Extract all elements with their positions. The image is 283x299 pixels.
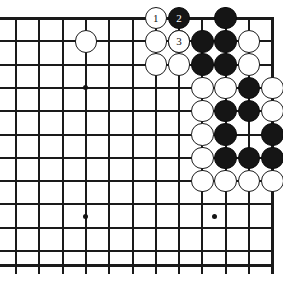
move-stone-white-3[interactable]: 3 xyxy=(168,30,191,53)
stone-black[interactable] xyxy=(238,147,261,170)
stone-black[interactable] xyxy=(214,30,237,53)
stone-black[interactable] xyxy=(214,147,237,170)
stone-black[interactable] xyxy=(214,123,237,146)
stone-black[interactable] xyxy=(261,123,283,146)
stone-white[interactable] xyxy=(261,77,283,100)
stone-white[interactable] xyxy=(191,147,214,170)
stone-black[interactable] xyxy=(261,147,283,170)
stone-white[interactable] xyxy=(191,100,214,123)
stone-white[interactable] xyxy=(145,30,168,53)
stone-white[interactable] xyxy=(214,77,237,100)
stone-white[interactable] xyxy=(75,30,98,53)
stone-white[interactable] xyxy=(191,123,214,146)
stone-white[interactable] xyxy=(261,170,283,193)
stone-white[interactable] xyxy=(168,53,191,76)
go-board-diagram: 123 xyxy=(0,0,283,299)
move-stone-white-1[interactable]: 1 xyxy=(145,7,168,30)
stone-black[interactable] xyxy=(214,53,237,76)
move-number-label: 1 xyxy=(153,13,159,24)
stone-white[interactable] xyxy=(238,30,261,53)
stone-black[interactable] xyxy=(191,53,214,76)
stone-white[interactable] xyxy=(145,53,168,76)
stone-black[interactable] xyxy=(191,30,214,53)
move-number-label: 2 xyxy=(176,13,182,24)
stone-white[interactable] xyxy=(238,53,261,76)
stone-white[interactable] xyxy=(191,170,214,193)
stone-white[interactable] xyxy=(261,100,283,123)
stone-white[interactable] xyxy=(214,170,237,193)
star-point xyxy=(212,214,217,219)
stone-black[interactable] xyxy=(214,7,237,30)
move-number-label: 3 xyxy=(176,36,182,47)
stone-white[interactable] xyxy=(191,77,214,100)
